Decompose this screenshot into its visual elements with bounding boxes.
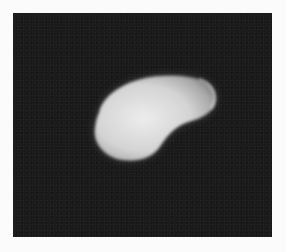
kidney-shaped-specimen [13, 13, 272, 237]
photo-frame [13, 13, 272, 237]
